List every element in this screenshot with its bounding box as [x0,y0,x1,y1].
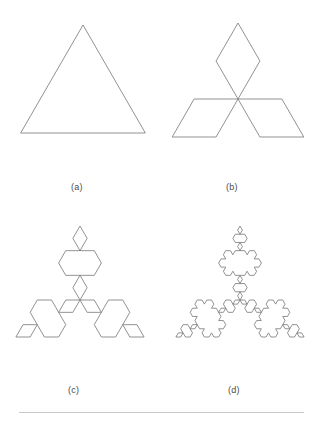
panel-d-outline [176,226,304,337]
figure-canvas: (a)(b)(c)(d) [0,0,326,421]
panel-d-shape [0,0,326,421]
panel-d-label: (d) [0,385,326,395]
footer-divider [19,412,304,413]
